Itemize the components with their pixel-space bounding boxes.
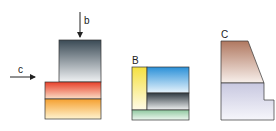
figure-b-label: B — [132, 55, 139, 66]
yellow-block — [132, 67, 147, 110]
figure-c: C — [221, 29, 274, 120]
figure-c-label: C — [221, 29, 228, 40]
figure-a: b c — [10, 12, 101, 119]
brown-block — [221, 41, 264, 83]
blue-block — [147, 67, 189, 93]
green-layer — [132, 110, 189, 120]
dark-block-b — [147, 93, 189, 110]
dark-block — [59, 40, 101, 82]
lavender-block — [221, 83, 274, 120]
figure-b: B — [132, 55, 189, 120]
arrow-b-label: b — [84, 15, 90, 26]
arrow-c-label: c — [18, 64, 23, 75]
orange-layer — [45, 99, 101, 119]
red-layer — [45, 82, 101, 99]
diagram-canvas: b c B C — [0, 0, 276, 131]
